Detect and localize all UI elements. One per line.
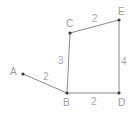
edge-b-c-weight: 3 <box>58 55 64 66</box>
vertex-d-label: D <box>118 97 125 108</box>
vertex-a-point <box>21 72 24 75</box>
vertex-e-label: E <box>118 6 125 17</box>
vertex-b-point <box>65 91 68 94</box>
edge-e-d-weight: 4 <box>121 56 127 67</box>
vertex-c-label: C <box>66 18 73 29</box>
edge-c-e-weight: 2 <box>92 13 98 24</box>
graph-svg: A B C D E 2 3 2 4 2 <box>0 0 136 121</box>
vertex-c-point <box>68 31 71 34</box>
vertex-a-label: A <box>10 66 17 77</box>
vertex-d-point <box>117 91 120 94</box>
edge-b-c <box>67 33 70 93</box>
edge-a-b-weight: 2 <box>43 71 49 82</box>
edge-b-d-weight: 2 <box>91 96 97 107</box>
vertex-e-point <box>117 18 120 21</box>
vertex-b-label: B <box>63 97 70 108</box>
graph-diagram: A B C D E 2 3 2 4 2 <box>0 0 136 121</box>
